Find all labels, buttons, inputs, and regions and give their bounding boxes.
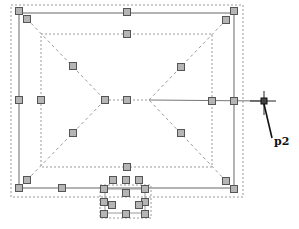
grip-handle[interactable] (178, 64, 185, 71)
grip-handle[interactable] (136, 177, 143, 184)
grip-handle[interactable] (223, 178, 230, 185)
grip-handle[interactable] (110, 177, 117, 184)
grip-handle[interactable] (231, 186, 238, 193)
grip-handle[interactable] (16, 185, 23, 192)
grip-handle[interactable] (38, 97, 45, 104)
grip-handle[interactable] (124, 31, 131, 38)
grip-handle[interactable] (101, 199, 108, 206)
rubberband-line (149, 100, 264, 101)
grip-handle[interactable] (178, 130, 185, 137)
grip-handle[interactable] (231, 8, 238, 15)
cursor-pickbox (261, 98, 267, 104)
roof-plan-geometry (11, 5, 264, 218)
cad-drawing-canvas[interactable] (0, 0, 299, 229)
grip-handle[interactable] (16, 8, 23, 15)
grip-handle[interactable] (59, 185, 66, 192)
leader-line (264, 104, 272, 138)
selection-grips[interactable] (16, 8, 238, 218)
grip-handle[interactable] (24, 177, 31, 184)
grip-handle[interactable] (70, 130, 77, 137)
grip-handle[interactable] (142, 211, 149, 218)
grip-handle[interactable] (142, 186, 149, 193)
point-label-p2: p2 (274, 136, 289, 147)
grip-handle[interactable] (231, 98, 238, 105)
grip-handle[interactable] (124, 9, 131, 16)
grip-handle[interactable] (123, 211, 130, 218)
grip-handle[interactable] (102, 97, 109, 104)
hip-line (149, 20, 226, 100)
grip-handle[interactable] (24, 16, 31, 23)
grip-handle[interactable] (124, 164, 131, 171)
grip-handle[interactable] (109, 202, 116, 209)
grip-handle[interactable] (16, 97, 23, 104)
grip-handle[interactable] (123, 177, 130, 184)
grip-handle[interactable] (123, 190, 130, 197)
hip-line (27, 100, 105, 180)
grip-handle[interactable] (101, 186, 108, 193)
grip-handle[interactable] (70, 63, 77, 70)
hip-line (149, 100, 226, 181)
hip-line (27, 19, 105, 100)
grip-handle[interactable] (101, 211, 108, 218)
crosshair-cursor-icon (250, 91, 276, 138)
grip-handle[interactable] (209, 98, 216, 105)
grip-handle[interactable] (124, 97, 131, 104)
grip-handle[interactable] (136, 202, 143, 209)
grip-handle[interactable] (223, 17, 230, 24)
